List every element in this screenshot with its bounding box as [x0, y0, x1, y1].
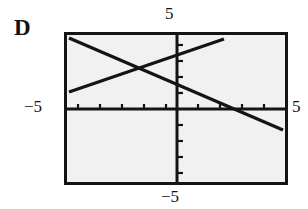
axis-label-left: −5 [24, 98, 42, 115]
axis-label-bottom: −5 [161, 188, 179, 205]
calculator-screen [64, 32, 288, 185]
part-label: D [14, 16, 31, 39]
plot-area [67, 35, 285, 182]
axis-label-top: 5 [165, 5, 174, 22]
plot-svg [67, 35, 285, 182]
axis-label-right: 5 [292, 98, 301, 115]
figure-panel: D [0, 0, 308, 209]
